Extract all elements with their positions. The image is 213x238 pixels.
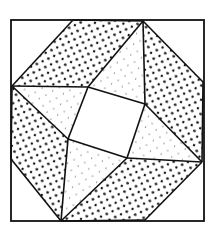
octagon-edge-right	[202, 82, 203, 162]
quilt-block-diagram	[0, 0, 213, 238]
seam-left-horizontal	[12, 86, 88, 87]
octagon-edge-left	[11, 86, 12, 159]
octagon-edge-top	[73, 20, 143, 21]
octagon-edge-bottom	[61, 220, 145, 221]
